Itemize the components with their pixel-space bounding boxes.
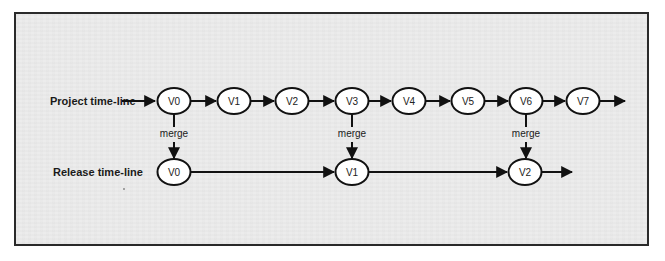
release-timeline-label: Release time-line <box>53 166 143 178</box>
merge-connector-3: merge <box>512 114 541 158</box>
project-node-v6: V6 <box>510 88 543 114</box>
svg-text:V3: V3 <box>346 96 359 107</box>
release-node-v2: V2 <box>509 159 542 185</box>
project-node-v0: V0 <box>158 88 191 114</box>
svg-text:V6: V6 <box>520 96 533 107</box>
svg-text:V4: V4 <box>403 96 416 107</box>
project-node-v3: V3 <box>336 88 369 114</box>
project-node-v4: V4 <box>393 88 426 114</box>
svg-text:merge: merge <box>338 128 367 139</box>
svg-text:V1: V1 <box>346 167 359 178</box>
project-node-v5: V5 <box>452 88 485 114</box>
merge-connector-1: merge <box>160 114 189 158</box>
svg-text:merge: merge <box>512 128 541 139</box>
project-node-v1: V1 <box>218 88 251 114</box>
svg-text:V7: V7 <box>577 96 590 107</box>
svg-text:V2: V2 <box>519 167 532 178</box>
timeline-diagram: Project time-line V0 V1 V2 V3 V4 V5 V6 V… <box>0 0 665 261</box>
speck <box>123 188 125 190</box>
svg-text:merge: merge <box>160 128 189 139</box>
svg-text:V5: V5 <box>462 96 475 107</box>
project-node-v7: V7 <box>567 88 600 114</box>
svg-text:V0: V0 <box>168 96 181 107</box>
svg-text:V0: V0 <box>168 167 181 178</box>
merge-connector-2: merge <box>338 114 367 158</box>
project-node-v2: V2 <box>276 88 309 114</box>
svg-text:V2: V2 <box>286 96 299 107</box>
svg-text:V1: V1 <box>228 96 241 107</box>
release-node-v0: V0 <box>158 159 191 185</box>
release-node-v1: V1 <box>336 159 369 185</box>
